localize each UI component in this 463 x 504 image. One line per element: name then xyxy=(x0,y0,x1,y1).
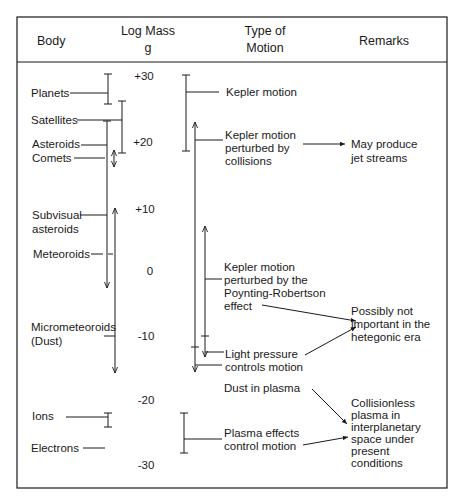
body-electrons: Electrons xyxy=(31,442,79,454)
body-micrometeoroids-2: (Dust) xyxy=(31,335,62,347)
remark-hetegonic-2: important in the xyxy=(351,318,430,330)
arrow-plasma-effects-to-collisionless xyxy=(303,437,348,445)
body-range-bars xyxy=(66,74,126,448)
mass-tick: 0 xyxy=(147,265,153,277)
remark-collisionless-2: plasma in xyxy=(351,409,400,421)
body-subvisual-asteroids-2: asteroids xyxy=(32,223,79,235)
remark-collisionless-6: conditions xyxy=(351,457,403,469)
header-type-of-motion-2: Motion xyxy=(246,41,284,55)
motion-poynting-2: perturbed by the xyxy=(224,274,308,286)
remark-collisionless-5: present xyxy=(351,445,390,457)
motion-light-pressure-2: controls motion xyxy=(225,361,303,373)
remark-hetegonic-3: hetegonic era xyxy=(351,331,421,343)
header-remarks: Remarks xyxy=(359,34,409,48)
table-header: Body Log Mass g Type of Motion Remarks xyxy=(37,24,409,55)
header-body: Body xyxy=(37,34,66,48)
remark-jet-streams-1: May produce xyxy=(351,138,417,150)
mass-tick: -30 xyxy=(138,459,155,471)
body-meteoroids: Meteoroids xyxy=(33,248,90,260)
motion-plasma-effects-1: Plasma effects xyxy=(224,427,299,439)
mass-tick: -10 xyxy=(138,330,155,342)
header-log-mass: Log Mass xyxy=(121,24,175,38)
mass-tick: +20 xyxy=(133,136,153,148)
remark-collisionless-1: Collisionless xyxy=(351,397,415,409)
body-subvisual-asteroids: Subvisual xyxy=(32,209,82,221)
motion-plasma-effects-2: control motion xyxy=(224,440,296,452)
body-planets: Planets xyxy=(31,87,70,99)
motion-range-bars xyxy=(180,75,224,453)
remark-jet-streams-2: jet streams xyxy=(350,152,407,164)
arrow-poynting-to-hetegonic xyxy=(262,305,356,321)
mass-tick: -20 xyxy=(138,394,155,406)
header-type-of-motion: Type of xyxy=(245,24,287,38)
body-satellites: Satellites xyxy=(31,114,78,126)
mass-tick: +30 xyxy=(134,70,154,82)
arrow-dust-plasma-to-collisionless xyxy=(312,389,347,424)
mass-scale: +30 +20 +10 0 -10 -20 -30 xyxy=(133,70,155,471)
body-asteroids: Asteroids xyxy=(32,138,80,150)
motion-light-pressure-1: Light pressure xyxy=(225,348,298,360)
motion-poynting-3: Poynting-Robertson xyxy=(224,287,326,299)
remark-collisionless-3: interplanetary xyxy=(351,421,421,433)
motion-types-diagram: Body Log Mass g Type of Motion Remarks +… xyxy=(0,0,463,504)
motion-column: Kepler motion Kepler motion perturbed by… xyxy=(224,86,326,452)
body-micrometeoroids: Micrometeoroids xyxy=(31,321,116,333)
body-column: Planets Satellites Asteroids Comets Subv… xyxy=(31,87,116,454)
motion-kepler-collisions-1: Kepler motion xyxy=(225,129,296,141)
motion-poynting-4: effect xyxy=(224,300,253,312)
body-comets: Comets xyxy=(32,152,72,164)
motion-poynting-1: Kepler motion xyxy=(224,261,295,273)
header-log-mass-unit: g xyxy=(145,41,152,55)
motion-kepler: Kepler motion xyxy=(226,86,297,98)
remark-hetegonic-1: Possibly not xyxy=(351,305,414,317)
remarks-column: May produce jet streams Possibly not imp… xyxy=(350,138,430,469)
motion-kepler-collisions-2: perturbed by xyxy=(225,142,290,154)
arrow-light-pressure-to-hetegonic xyxy=(305,327,356,355)
mass-tick: +10 xyxy=(135,203,155,215)
body-ions: Ions xyxy=(32,410,54,422)
motion-dust-in-plasma: Dust in plasma xyxy=(224,382,301,394)
remark-collisionless-4: space under xyxy=(351,433,414,445)
motion-kepler-collisions-3: collisions xyxy=(225,155,272,167)
